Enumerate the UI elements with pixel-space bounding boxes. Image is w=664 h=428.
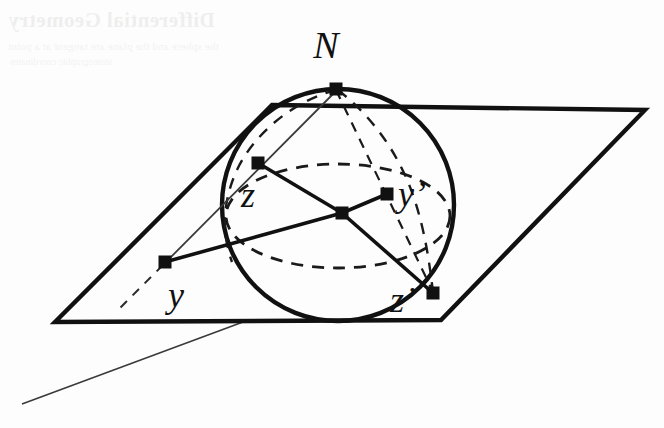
- label-north-pole: N: [312, 24, 341, 66]
- point-marker-y-prime: [381, 188, 394, 201]
- point-marker-z-prime: [427, 287, 440, 300]
- point-marker-z: [252, 157, 265, 170]
- point-marker-sphere-center: [336, 207, 349, 220]
- figure-root: Differential Geometry the sphere and the…: [0, 0, 664, 428]
- point-marker-y: [159, 256, 172, 269]
- tangent-plane: [55, 105, 645, 322]
- radius-center-to-y-prime: [342, 194, 387, 213]
- label-y: y: [165, 275, 184, 315]
- label-z-prime: z’: [389, 280, 416, 320]
- point-marker-north-pole: [330, 83, 343, 96]
- radius-center-to-z: [258, 163, 342, 213]
- label-z: z: [240, 175, 255, 215]
- label-y-prime: y’: [395, 174, 426, 214]
- projection-ray-y-extension: [118, 265, 163, 310]
- extension-line: [22, 322, 243, 404]
- stereographic-projection-diagram: N z y’ y z’: [0, 0, 664, 428]
